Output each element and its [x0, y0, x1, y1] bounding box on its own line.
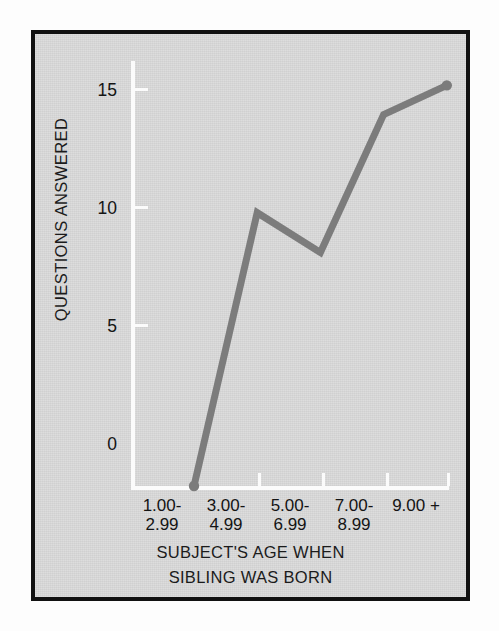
- plot-area: [131, 54, 451, 474]
- chart-figure-frame: QUESTIONS ANSWERED 15 10 5 0: [31, 30, 470, 601]
- data-point-marker-last: [442, 80, 452, 90]
- y-axis-tick-label-10: 10: [77, 200, 117, 218]
- x-axis-tick-label-5: 9.00 +: [377, 496, 455, 515]
- figure-page: QUESTIONS ANSWERED 15 10 5 0: [0, 0, 499, 631]
- y-axis-tick-label-group: 15 10 5 0: [71, 34, 117, 605]
- x-axis-tick-label-4-line2: 8.99: [315, 515, 393, 534]
- data-series-line-chart: [131, 54, 451, 494]
- x-axis-tick-label-group: 1.00- 2.99 3.00- 4.99 5.00- 6.99 7.00- 8…: [131, 496, 471, 544]
- x-axis-title-line1: SUBJECT'S AGE WHEN: [35, 540, 466, 565]
- x-axis-tick-label-5-line1: 9.00 +: [377, 496, 455, 515]
- y-axis-title: QUESTIONS ANSWERED: [52, 90, 71, 350]
- series-polyline-questions-answered: [194, 85, 447, 486]
- data-point-marker-first: [189, 481, 199, 491]
- y-axis-tick-label-5: 5: [77, 318, 117, 336]
- x-axis-title-line2: SIBLING WAS BORN: [35, 565, 466, 590]
- y-axis-tick-label-15: 15: [77, 82, 117, 100]
- y-axis-tick-label-0: 0: [77, 436, 117, 454]
- x-axis-title: SUBJECT'S AGE WHEN SIBLING WAS BORN: [35, 540, 466, 590]
